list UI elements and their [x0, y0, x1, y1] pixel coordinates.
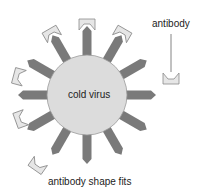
free-antibody — [28, 156, 47, 174]
caption: antibody shape fits — [48, 176, 131, 187]
antibody-callout-label: antibody — [152, 18, 190, 29]
bound-antibody — [13, 110, 29, 129]
free-antibody — [163, 73, 179, 84]
bound-antibody — [12, 68, 27, 86]
virus-label: cold virus — [68, 89, 110, 100]
